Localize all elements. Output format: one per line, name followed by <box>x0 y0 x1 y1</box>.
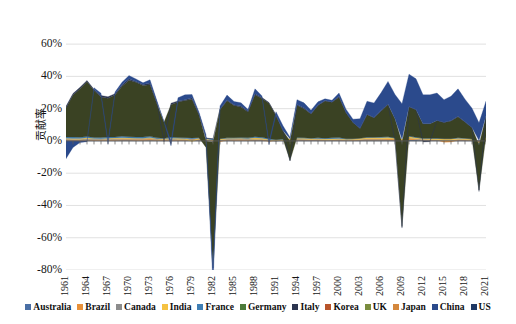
x-tick-label: 2018 <box>459 276 469 296</box>
plot-area <box>66 28 486 270</box>
x-axis-tick-labels: 1961196419671970197319761979198219851988… <box>66 272 486 296</box>
y-tick-label: -80% <box>18 264 62 276</box>
legend-item-canada[interactable]: Canada <box>116 302 156 312</box>
legend-swatch-icon <box>197 304 203 310</box>
legend-swatch-icon <box>77 304 83 310</box>
legend-item-australia[interactable]: Australia <box>25 302 71 312</box>
y-tick-label: 60% <box>18 38 62 50</box>
chart-legend: AustraliaBrazilCanadaIndiaFranceGermanyI… <box>0 302 516 312</box>
legend-item-uk[interactable]: UK <box>365 302 387 312</box>
x-tick-label: 1988 <box>249 276 259 296</box>
x-tick-label: 1961 <box>60 276 70 296</box>
legend-item-india[interactable]: India <box>162 302 192 312</box>
x-tick-label: 2021 <box>480 276 490 296</box>
x-tick-label: 2015 <box>438 276 448 296</box>
legend-swatch-icon <box>325 304 331 310</box>
x-tick-label: 2012 <box>417 276 427 296</box>
legend-label: Germany <box>248 302 287 312</box>
legend-label: Canada <box>124 302 156 312</box>
x-tick-label: 1994 <box>291 276 301 296</box>
x-tick-label: 1976 <box>165 276 175 296</box>
legend-swatch-icon <box>471 304 477 310</box>
x-tick-label: 1964 <box>81 276 91 296</box>
legend-item-italy[interactable]: Italy <box>292 302 319 312</box>
x-tick-label: 2000 <box>333 276 343 296</box>
legend-swatch-icon <box>292 304 298 310</box>
x-tick-label: 1982 <box>207 276 217 296</box>
x-tick-label: 1970 <box>123 276 133 296</box>
y-tick-label: -40% <box>18 199 62 211</box>
legend-item-us[interactable]: US <box>471 302 491 312</box>
legend-item-brazil[interactable]: Brazil <box>77 302 110 312</box>
legend-swatch-icon <box>365 304 371 310</box>
x-tick-label: 1985 <box>228 276 238 296</box>
y-tick-label: 20% <box>18 103 62 115</box>
legend-label: UK <box>373 302 387 312</box>
legend-label: Brazil <box>85 302 110 312</box>
legend-item-germany[interactable]: Germany <box>240 302 287 312</box>
x-tick-label: 2003 <box>354 276 364 296</box>
legend-item-korea[interactable]: Korea <box>325 302 358 312</box>
legend-label: Italy <box>300 302 319 312</box>
legend-label: China <box>440 302 465 312</box>
x-tick-label: 1973 <box>144 276 154 296</box>
legend-swatch-icon <box>116 304 122 310</box>
legend-swatch-icon <box>240 304 246 310</box>
x-tick-label: 2009 <box>396 276 406 296</box>
y-tick-label: 40% <box>18 70 62 82</box>
legend-item-france[interactable]: France <box>197 302 234 312</box>
legend-swatch-icon <box>432 304 438 310</box>
legend-label: Australia <box>33 302 71 312</box>
legend-item-japan[interactable]: Japan <box>393 302 426 312</box>
stacked-area-plot <box>66 28 486 270</box>
y-tick-label: 0% <box>18 135 62 147</box>
legend-label: France <box>205 302 234 312</box>
legend-label: Japan <box>401 302 426 312</box>
legend-label: India <box>170 302 192 312</box>
y-tick-label: -60% <box>18 232 62 244</box>
x-tick-label: 1991 <box>270 276 280 296</box>
legend-swatch-icon <box>162 304 168 310</box>
legend-label: US <box>479 302 491 312</box>
x-tick-label: 1967 <box>102 276 112 296</box>
y-tick-label: -20% <box>18 167 62 179</box>
x-tick-label: 1979 <box>186 276 196 296</box>
chart-container: 贡献率 60%40%20%0%-20%-40%-60%-80% 19611964… <box>0 0 516 324</box>
legend-label: Korea <box>333 302 358 312</box>
legend-swatch-icon <box>25 304 31 310</box>
y-axis-tick-labels: 60%40%20%0%-20%-40%-60%-80% <box>16 0 62 324</box>
x-tick-label: 1997 <box>312 276 322 296</box>
x-tick-label: 2006 <box>375 276 385 296</box>
legend-item-china[interactable]: China <box>432 302 465 312</box>
legend-swatch-icon <box>393 304 399 310</box>
